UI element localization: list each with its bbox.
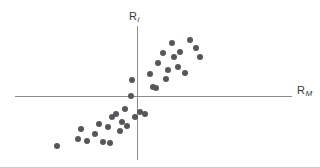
data-point — [128, 93, 134, 99]
data-point — [153, 85, 159, 91]
data-point — [84, 138, 90, 144]
data-point — [197, 54, 203, 60]
data-point — [122, 106, 128, 112]
x-axis-label-base: R — [297, 84, 305, 96]
data-point — [124, 123, 130, 129]
data-point — [92, 131, 98, 137]
data-point — [165, 67, 171, 73]
data-point — [100, 139, 106, 145]
data-point — [75, 136, 81, 142]
x-axis-line — [15, 96, 292, 97]
data-point — [155, 60, 161, 66]
data-point — [160, 50, 166, 56]
data-point — [171, 54, 177, 60]
data-point — [129, 77, 135, 83]
y-axis-label-base: R — [129, 10, 137, 22]
plot-area: Ri RM — [0, 0, 320, 168]
data-point — [117, 128, 123, 134]
data-point — [54, 143, 60, 149]
y-axis-line — [137, 26, 138, 160]
data-point — [78, 126, 84, 132]
data-point — [105, 124, 111, 130]
data-point — [147, 71, 153, 77]
data-point — [169, 40, 175, 46]
scatter-figure: Ri RM — [0, 0, 320, 168]
data-point — [107, 140, 113, 146]
data-point — [163, 76, 169, 82]
figure-bottom-rule — [0, 167, 320, 168]
data-point — [177, 49, 183, 55]
data-point — [113, 111, 119, 117]
data-point — [182, 70, 188, 76]
y-axis-label-subscript: i — [137, 15, 139, 24]
data-point — [142, 111, 148, 117]
data-point — [175, 64, 181, 70]
x-axis-label: RM — [297, 84, 312, 98]
data-point — [96, 121, 102, 127]
y-axis-label: Ri — [129, 10, 139, 24]
data-point — [187, 37, 193, 43]
x-axis-label-subscript: M — [305, 89, 312, 98]
data-point — [132, 114, 138, 120]
data-point — [193, 45, 199, 51]
